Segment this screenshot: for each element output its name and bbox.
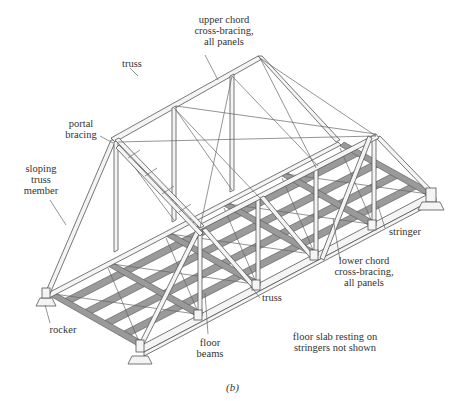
label-truss-bottom: truss (255, 292, 289, 303)
bridge-figure: upper chord cross-bracing, all panels tr… (0, 0, 453, 401)
label-upper-chord-cross-bracing: upper chord cross-bracing, all panels (182, 14, 266, 47)
figure-caption: (b) (226, 381, 239, 393)
label-stringer: stringer (380, 226, 430, 237)
label-floor-slab-note: floor slab resting on stringers not show… (280, 331, 390, 353)
label-lower-chord-cross-bracing: lower chord cross-bracing, all panels (322, 255, 406, 288)
label-truss-top: truss (115, 58, 149, 69)
label-floor-beams: floor beams (190, 337, 230, 359)
label-portal-bracing: portal bracing (60, 118, 102, 140)
label-sloping-truss-member: sloping truss member (20, 163, 62, 196)
label-rocker: rocker (44, 324, 82, 335)
